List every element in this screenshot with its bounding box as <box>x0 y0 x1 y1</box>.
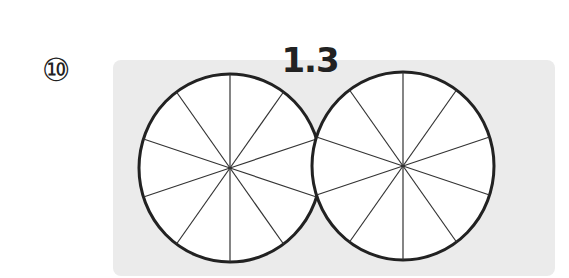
fraction-circle-right[interactable] <box>312 72 494 260</box>
value-label: 1.3 <box>270 40 350 80</box>
fraction-circle-left[interactable] <box>139 74 321 262</box>
